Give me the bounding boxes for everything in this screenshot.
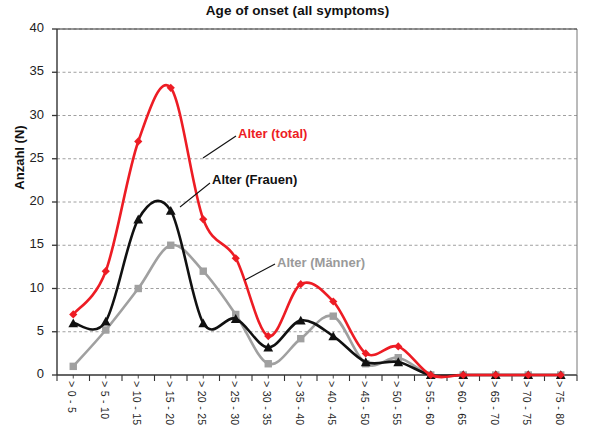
data-point-marker (102, 326, 109, 333)
data-point-marker (330, 312, 337, 319)
data-point-marker (200, 268, 207, 275)
data-point-marker (134, 137, 142, 145)
series-alter-frauen (68, 201, 565, 379)
annotation-alter-maenner: Alter (Männer) (277, 255, 365, 270)
series-alter-total (69, 84, 565, 379)
data-point-marker (297, 335, 304, 342)
annotation-alter-total: Alter (total) (238, 126, 307, 141)
data-point-marker (101, 317, 111, 326)
data-point-marker (70, 363, 77, 370)
data-point-marker (167, 242, 174, 249)
data-point-marker (265, 360, 272, 367)
data-point-marker (135, 285, 142, 292)
data-point-marker (198, 318, 208, 327)
chart-figure: Age of onset (all symptoms) Anzahl (N) 0… (0, 0, 595, 438)
data-point-marker (199, 215, 207, 223)
plot-canvas (0, 0, 595, 438)
annotation-alter-frauen: Alter (Frauen) (212, 172, 297, 187)
annotation-leader-line (245, 264, 275, 280)
annotation-leader-line (203, 136, 236, 158)
series-line (73, 85, 561, 377)
data-point-marker (102, 267, 110, 275)
